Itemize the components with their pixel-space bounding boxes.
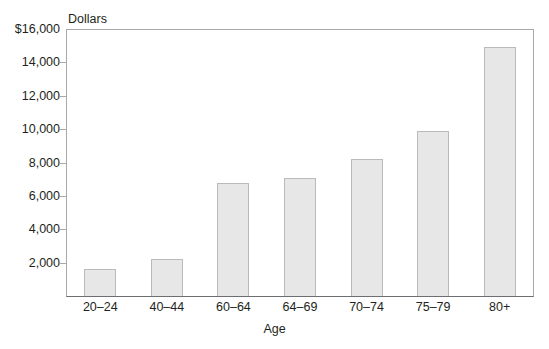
x-axis-tick-label: 64–69 <box>267 300 334 315</box>
y-axis-tick-label: 6,000 <box>0 190 60 202</box>
x-axis-tick-label: 60–64 <box>200 300 267 315</box>
y-axis-tick-label: 10,000 <box>0 123 60 135</box>
y-axis-tick-label: 2,000 <box>0 257 60 269</box>
bar-slot <box>67 30 134 296</box>
y-axis-tick-label: 14,000 <box>0 56 60 68</box>
bar-slot <box>400 30 467 296</box>
y-axis-tick-mark <box>60 96 66 97</box>
y-axis-tick-mark <box>60 129 66 130</box>
x-axis-tick-label: 40–44 <box>134 300 201 315</box>
bar[interactable] <box>284 178 316 296</box>
bar-chart: Dollars 2,0004,0006,0008,00010,00012,000… <box>0 0 549 349</box>
y-axis-tick-mark <box>60 263 66 264</box>
bar-slot <box>333 30 400 296</box>
bar[interactable] <box>217 183 249 296</box>
x-axis-tick-label: 20–24 <box>67 300 134 315</box>
bar-slot <box>466 30 533 296</box>
x-axis-tick-label: 70–74 <box>333 300 400 315</box>
bar-slot <box>200 30 267 296</box>
y-axis-tick-mark <box>60 163 66 164</box>
bar-slot <box>134 30 201 296</box>
y-axis-tick-label: 8,000 <box>0 157 60 169</box>
y-axis-tick-labels: 2,0004,0006,0008,00010,00012,00014,000$1… <box>0 0 60 349</box>
x-axis-tick-label: 75–79 <box>400 300 467 315</box>
y-axis-tick-label: $16,000 <box>0 23 60 35</box>
bar[interactable] <box>417 131 449 296</box>
y-axis-tick-label: 4,000 <box>0 223 60 235</box>
bar-slot <box>267 30 334 296</box>
y-axis-tick-mark <box>60 196 66 197</box>
bars-layer <box>67 30 533 296</box>
bar[interactable] <box>351 159 383 296</box>
bar[interactable] <box>484 47 516 296</box>
y-axis-tick-mark <box>60 229 66 230</box>
y-axis-unit-label: Dollars <box>68 12 107 26</box>
x-axis-tick-labels: 20–2440–4460–6464–6970–7475–7980+ <box>67 300 533 320</box>
y-axis-tick-label: 12,000 <box>0 90 60 102</box>
y-axis-tick-mark <box>60 62 66 63</box>
x-axis-title: Age <box>0 322 549 336</box>
x-axis-tick-label: 80+ <box>466 300 533 315</box>
bar[interactable] <box>151 259 183 296</box>
bar[interactable] <box>84 269 116 296</box>
